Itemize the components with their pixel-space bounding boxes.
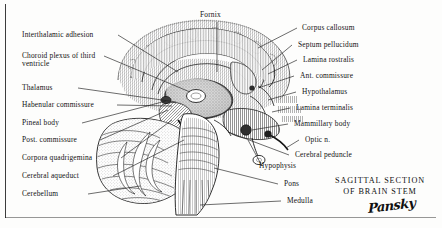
label-cerebellum: Cerebellum <box>22 190 58 199</box>
label-hypothalamus: Hypothalamus <box>302 88 347 97</box>
label-corpus-callosum: Corpus callosum <box>302 24 355 33</box>
leader-pineal-body <box>82 101 166 123</box>
plate-title: SAGITTAL SECTION OF BRAIN STEM <box>326 176 434 197</box>
leader-corpus-callosum <box>258 28 297 48</box>
leader-cerebral-peduncle <box>228 132 289 155</box>
label-lamina-terminalis: Lamina terminalis <box>296 104 353 113</box>
label-habenular-commissure: Habenular commissure <box>22 101 94 110</box>
label-lamina-rostralis: Lamina rostralis <box>303 56 354 65</box>
leader-habenular-commissure <box>117 105 172 106</box>
leader-hypothalamus <box>268 92 296 100</box>
plate-title-line-1: SAGITTAL SECTION <box>326 176 434 187</box>
label-septum-pellucidum: Septum pellucidum <box>298 41 359 50</box>
leader-septum-pellucidum <box>262 45 292 70</box>
leader-post-commissure <box>100 110 168 140</box>
label-thalamus: Thalamus <box>22 84 53 93</box>
label-optic-n: Optic n. <box>305 136 330 145</box>
leader-optic-n <box>286 140 299 148</box>
label-interthalamic-adhesion: Interthalamic adhesion <box>22 31 93 40</box>
label-pons: Pons <box>284 180 299 189</box>
leader-mammillary-body <box>252 124 288 130</box>
leader-interthalamic-adhesion <box>118 35 178 72</box>
leader-cerebral-aqueduct <box>113 140 184 176</box>
label-fornix: Fornix <box>200 11 221 20</box>
leader-corpora-quadrigemina <box>121 120 172 158</box>
label-corpora-quadrigemina: Corpora quadrigemina <box>22 154 92 163</box>
label-cerebral-peduncle: Cerebral peduncle <box>295 151 352 160</box>
leader-medulla <box>200 201 281 205</box>
leader-ant-commissure <box>258 76 294 88</box>
label-cerebral-aqueduct: Cerebral aqueduct <box>22 172 79 181</box>
leader-lamina-rostralis <box>268 60 297 74</box>
anatomical-plate: Fornix Interthalamic adhesion Choroid pl… <box>0 0 442 228</box>
leader-cerebellum <box>88 186 140 194</box>
leader-choroid-plexus-third-ventricle <box>104 56 190 92</box>
label-medulla: Medulla <box>287 197 313 206</box>
label-post-commissure: Post. commissure <box>22 136 77 145</box>
label-pineal-body: Pineal body <box>22 119 59 128</box>
label-ant-commissure: Ant. commissure <box>300 72 353 81</box>
label-mammillary-body: Mammillary body <box>294 120 350 129</box>
label-choroid-plexus-third-ventricle: Choroid plexus of third ventricle <box>22 52 98 69</box>
plate-title-line-2: OF BRAIN STEM <box>326 187 434 198</box>
label-hypophysis: Hypophysis <box>259 162 296 171</box>
leader-lamina-terminalis <box>272 108 290 112</box>
